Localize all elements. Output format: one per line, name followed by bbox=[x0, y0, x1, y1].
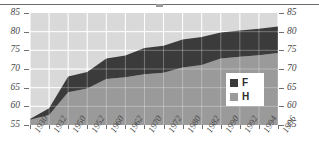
y-tick-mark-right bbox=[279, 13, 284, 14]
x-tick-mark bbox=[164, 125, 165, 129]
y-tick-label-right: 60 bbox=[287, 101, 303, 111]
plot-svg bbox=[30, 13, 278, 125]
x-tick-mark bbox=[30, 125, 31, 129]
legend-item-h: H bbox=[230, 90, 249, 103]
legend-item-f: F bbox=[230, 76, 248, 89]
legend-swatch-h-icon bbox=[230, 93, 238, 101]
x-tick-mark bbox=[183, 125, 184, 129]
y-tick-mark-right bbox=[279, 106, 284, 107]
x-tick-mark bbox=[221, 125, 222, 129]
y-tick-label-left: 60 bbox=[4, 101, 20, 111]
chart-legend: F H bbox=[226, 73, 264, 106]
y-tick-mark-right bbox=[279, 32, 284, 33]
y-tick-mark-left bbox=[24, 32, 29, 33]
y-tick-label-left: 70 bbox=[4, 64, 20, 74]
y-tick-label-right: 70 bbox=[287, 64, 303, 74]
y-tick-label-right: 80 bbox=[287, 27, 303, 37]
legend-label-h: H bbox=[242, 92, 249, 102]
plot-area bbox=[30, 13, 278, 125]
y-tick-label-left: 85 bbox=[4, 8, 20, 18]
y-tick-mark-left bbox=[24, 50, 29, 51]
x-tick-mark bbox=[278, 125, 279, 129]
y-tick-mark-right bbox=[279, 69, 284, 70]
y-tick-mark-left bbox=[24, 13, 29, 14]
y-tick-mark-right bbox=[279, 88, 284, 89]
x-tick-mark bbox=[240, 125, 241, 129]
y-tick-mark-left bbox=[24, 106, 29, 107]
x-tick-mark bbox=[87, 125, 88, 129]
x-tick-mark bbox=[202, 125, 203, 129]
x-tick-mark bbox=[49, 125, 50, 129]
y-tick-mark-left bbox=[24, 69, 29, 70]
y-tick-label-right: 75 bbox=[287, 45, 303, 55]
y-tick-label-left: 65 bbox=[4, 83, 20, 93]
life-expectancy-area-chart: 8585808075757070656560605555193019321950… bbox=[0, 0, 319, 162]
y-tick-mark-right bbox=[279, 50, 284, 51]
legend-label-f: F bbox=[242, 78, 248, 88]
x-tick-mark bbox=[259, 125, 260, 129]
y-tick-mark-left bbox=[24, 88, 29, 89]
legend-swatch-f-icon bbox=[230, 79, 238, 87]
y-tick-label-left: 75 bbox=[4, 45, 20, 55]
x-tick-mark bbox=[106, 125, 107, 129]
y-tick-mark-left bbox=[24, 125, 29, 126]
y-tick-label-left: 80 bbox=[4, 27, 20, 37]
y-tick-label-right: 65 bbox=[287, 83, 303, 93]
y-tick-label-right: 85 bbox=[287, 8, 303, 18]
x-tick-mark bbox=[68, 125, 69, 129]
y-tick-label-left: 55 bbox=[4, 120, 20, 130]
